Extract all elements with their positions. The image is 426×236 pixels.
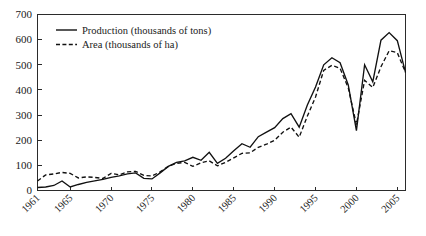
chart-legend: Production (thousands of tons)Area (thou… [56,25,212,52]
x-tick-label: 2005 [379,192,402,215]
x-tick-label: 2000 [338,192,361,215]
x-tick-label: 1965 [52,192,75,215]
y-tick-label: 400 [16,84,33,96]
chart-container: 0100200300400500600700 19611965197019751… [0,0,426,236]
x-tick-label: 1990 [256,192,279,215]
x-tick-label: 1985 [216,192,239,215]
y-tick-label: 300 [16,109,33,121]
y-tick-label: 700 [16,8,33,20]
line-chart: 0100200300400500600700 19611965197019751… [0,0,426,236]
legend-label-2: Area (thousands of ha) [82,39,178,51]
x-tick-label: 1970 [93,192,116,215]
y-tick-label: 100 [16,159,33,171]
x-tick-label: 1995 [297,192,320,215]
x-tick-label: 1961 [19,192,42,215]
x-axis-ticks [38,187,398,191]
y-tick-label: 500 [16,59,33,71]
y-axis-tick-labels: 0100200300400500600700 [16,8,33,196]
data-series [38,33,406,188]
x-axis-tick-labels: 1961196519701975198019851990199520002005 [19,192,401,215]
y-tick-label: 600 [16,33,33,45]
y-tick-label: 200 [16,134,33,146]
legend-label-1: Production (thousands of tons) [82,25,212,37]
x-tick-label: 1975 [134,192,157,215]
y-axis-ticks [38,15,42,191]
x-tick-label: 1980 [175,192,198,215]
